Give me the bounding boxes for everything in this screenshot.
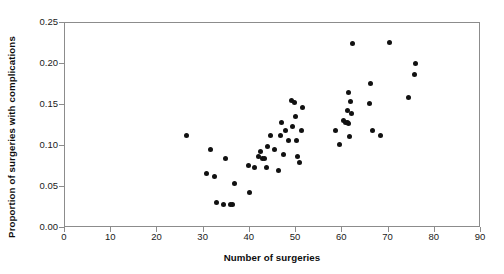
data-point (299, 128, 304, 133)
x-tick-mark (295, 227, 296, 232)
data-point (406, 95, 411, 100)
x-tick-mark (156, 227, 157, 232)
data-point (276, 168, 281, 173)
data-point (214, 200, 219, 205)
data-point (278, 133, 283, 138)
data-point (347, 134, 352, 139)
data-point (346, 121, 351, 126)
x-tick-label: 0 (61, 232, 66, 242)
data-point (412, 72, 417, 77)
data-points-layer (64, 22, 480, 227)
data-point (232, 181, 237, 186)
data-point (300, 105, 305, 110)
data-point (378, 133, 383, 138)
x-tick-mark (480, 227, 481, 232)
data-point (350, 41, 355, 46)
data-point (348, 99, 353, 104)
data-point (262, 156, 267, 161)
data-point (387, 40, 392, 45)
y-tick-label: 0.15 (40, 99, 59, 109)
x-tick-label: 30 (197, 232, 208, 242)
data-point (290, 124, 295, 129)
x-tick-label: 10 (105, 232, 116, 242)
x-tick-label: 60 (336, 232, 347, 242)
data-point (223, 156, 228, 161)
x-tick-mark (110, 227, 111, 232)
data-point (204, 171, 209, 176)
y-tick-label: 0.00 (40, 222, 59, 232)
data-point (281, 152, 286, 157)
data-point (212, 174, 217, 179)
data-point (346, 90, 351, 95)
y-tick-label: 0.20 (40, 58, 59, 68)
y-tick-mark (59, 104, 64, 105)
data-point (247, 190, 252, 195)
x-tick-label: 90 (475, 232, 486, 242)
y-tick-mark (59, 63, 64, 64)
data-point (272, 147, 277, 152)
x-tick-mark (249, 227, 250, 232)
x-tick-mark (64, 227, 65, 232)
data-point (413, 61, 418, 66)
data-point (252, 165, 257, 170)
x-tick-mark (388, 227, 389, 232)
data-point (286, 138, 291, 143)
x-tick-mark (341, 227, 342, 232)
y-axis-title: Proportion of surgeries with complicatio… (0, 0, 22, 274)
data-point (184, 133, 189, 138)
data-point (333, 128, 338, 133)
data-point (295, 154, 300, 159)
x-tick-label: 70 (382, 232, 393, 242)
data-point (258, 149, 263, 154)
x-tick-label: 80 (428, 232, 439, 242)
y-tick-label: 0.10 (40, 140, 59, 150)
data-point (228, 202, 233, 207)
data-point (337, 142, 342, 147)
data-point (368, 81, 373, 86)
y-tick-mark (59, 22, 64, 23)
data-point (367, 101, 372, 106)
data-point (349, 111, 354, 116)
x-tick-label: 50 (290, 232, 301, 242)
data-point (292, 100, 297, 105)
data-point (264, 165, 269, 170)
y-tick-label: 0.05 (40, 181, 59, 191)
data-point (297, 160, 302, 165)
data-point (221, 202, 226, 207)
data-point (246, 163, 251, 168)
x-tick-mark (434, 227, 435, 232)
x-tick-label: 40 (244, 232, 255, 242)
data-point (279, 120, 284, 125)
data-point (208, 147, 213, 152)
data-point (265, 144, 270, 149)
x-axis-tick-labels: 0102030405060708090 (0, 232, 504, 246)
data-point (283, 128, 288, 133)
x-tick-label: 20 (151, 232, 162, 242)
scatter-chart: 0.000.050.100.150.200.25 010203040506070… (0, 0, 504, 274)
y-tick-label: 0.25 (40, 17, 59, 27)
data-point (370, 128, 375, 133)
data-point (293, 114, 298, 119)
y-tick-mark (59, 145, 64, 146)
data-point (268, 133, 273, 138)
data-point (294, 138, 299, 143)
y-tick-mark (59, 186, 64, 187)
x-tick-mark (203, 227, 204, 232)
x-axis-title: Number of surgeries (64, 252, 480, 263)
